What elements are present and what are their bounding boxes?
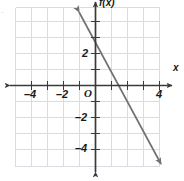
- y-axis-label: f(x): [99, 0, 115, 8]
- x-axis-label: x: [173, 63, 179, 73]
- y-tick-label-2: 2: [82, 48, 88, 59]
- linear-function-graph: ·: [0, 0, 184, 181]
- origin-label: O: [84, 88, 92, 99]
- x-tick-label-neg4: –4: [24, 89, 36, 100]
- y-tick-label-neg2: –2: [75, 112, 87, 123]
- x-tick-label-neg2: –2: [56, 89, 68, 100]
- y-tick-label-neg4: –4: [75, 143, 87, 154]
- x-tick-label-4: 4: [156, 89, 162, 100]
